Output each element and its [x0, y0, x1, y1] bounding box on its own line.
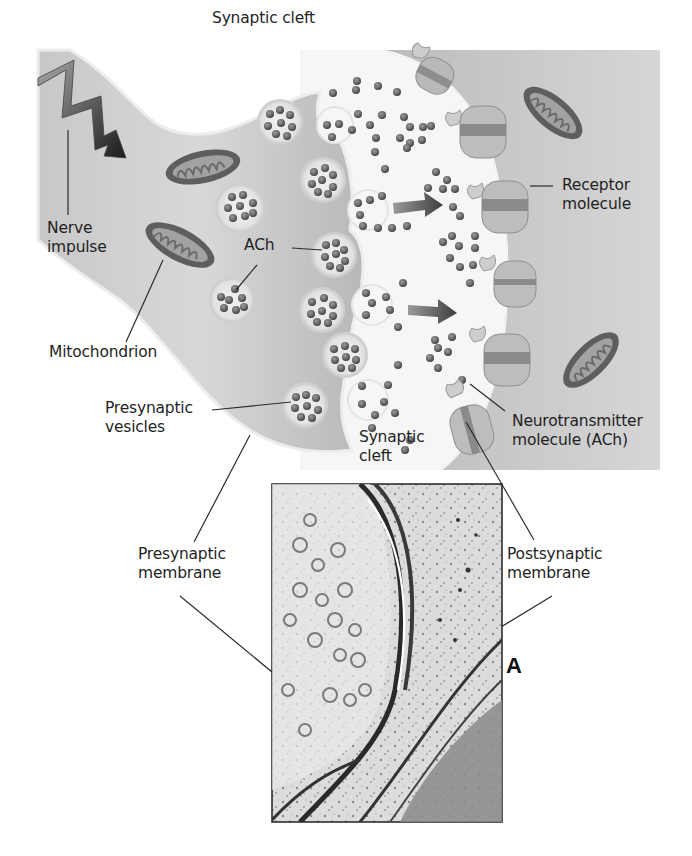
- vesicle: [301, 158, 345, 202]
- label-nerve-impulse-line2: impulse: [47, 238, 107, 257]
- vesicle: [300, 288, 344, 332]
- vesicle: [216, 184, 264, 232]
- vesicle: [323, 333, 367, 377]
- label-receptor-molecule-line1: Receptor: [562, 176, 631, 195]
- vesicle: [258, 100, 302, 144]
- label-presynaptic-membrane-line1: Presynaptic: [138, 545, 226, 564]
- panel-letter: A: [506, 653, 522, 679]
- label-nerve-impulse-line1: Nerve: [47, 219, 107, 238]
- label-synaptic-cleft-bottom: Synaptic cleft: [359, 428, 424, 466]
- label-presynaptic-membrane-line2: membrane: [138, 564, 226, 583]
- label-synaptic-cleft-top: Synaptic cleft: [212, 9, 315, 28]
- label-nerve-impulse: Nerve impulse: [47, 219, 107, 257]
- label-neurotransmitter-line1: Neurotransmitter: [512, 412, 643, 431]
- vesicle: [283, 383, 327, 427]
- electron-micrograph: [272, 484, 502, 822]
- label-neurotransmitter-molecule: Neurotransmitter molecule (ACh): [512, 412, 643, 450]
- label-receptor-molecule: Receptor molecule: [562, 176, 631, 214]
- label-presynaptic-membrane: Presynaptic membrane: [138, 545, 226, 583]
- label-synaptic-cleft-bottom-line2: cleft: [359, 447, 424, 466]
- vesicle: [312, 233, 356, 277]
- label-presynaptic-vesicles-line1: Presynaptic: [105, 399, 193, 418]
- label-ach: ACh: [244, 236, 274, 255]
- label-synaptic-cleft-bottom-line1: Synaptic: [359, 428, 424, 447]
- synapse-figure: Synaptic cleft Nerve impulse ACh Mitocho…: [0, 0, 692, 856]
- label-presynaptic-vesicles: Presynaptic vesicles: [105, 399, 193, 437]
- label-mitochondrion: Mitochondrion: [49, 343, 157, 362]
- vesicle: [210, 278, 254, 322]
- label-postsynaptic-membrane-line2: membrane: [507, 564, 602, 583]
- label-neurotransmitter-line2: molecule (ACh): [512, 431, 643, 450]
- label-presynaptic-vesicles-line2: vesicles: [105, 418, 193, 437]
- label-postsynaptic-membrane: Postsynaptic membrane: [507, 545, 602, 583]
- label-receptor-molecule-line2: molecule: [562, 195, 631, 214]
- label-postsynaptic-membrane-line1: Postsynaptic: [507, 545, 602, 564]
